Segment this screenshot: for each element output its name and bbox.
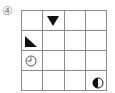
symbol-grid: [21, 10, 107, 91]
grid-cell-r2-c1: [22, 31, 43, 51]
grid-cell-r4-c3: [65, 71, 86, 91]
clock-outline-icon: [25, 55, 37, 67]
grid-cell-r3-c1: [22, 51, 43, 71]
grid-cell-r1-c2: [43, 11, 64, 31]
grid-cell-r4-c4: [86, 71, 107, 91]
grid-cell-r1-c3: [65, 11, 86, 31]
right-triangle-filled-icon: [25, 36, 37, 47]
grid-cell-r4-c2: [43, 71, 64, 91]
grid-cell-r3-c2: [43, 51, 64, 71]
grid-cell-r2-c2: [43, 31, 64, 51]
grid-cell-r3-c3: [65, 51, 86, 71]
grid-cell-r1-c1: [22, 11, 43, 31]
problem-number-label: ④: [2, 4, 13, 18]
grid-cell-r2-c3: [65, 31, 86, 51]
grid-cell-r4-c1: [22, 71, 43, 91]
grid-cell-r3-c4: [86, 51, 107, 71]
grid-cell-r1-c4: [86, 11, 107, 31]
half-circle-left-filled-icon: [92, 77, 104, 89]
grid-cell-r2-c4: [86, 31, 107, 51]
triangle-down-filled-icon: [47, 16, 59, 26]
